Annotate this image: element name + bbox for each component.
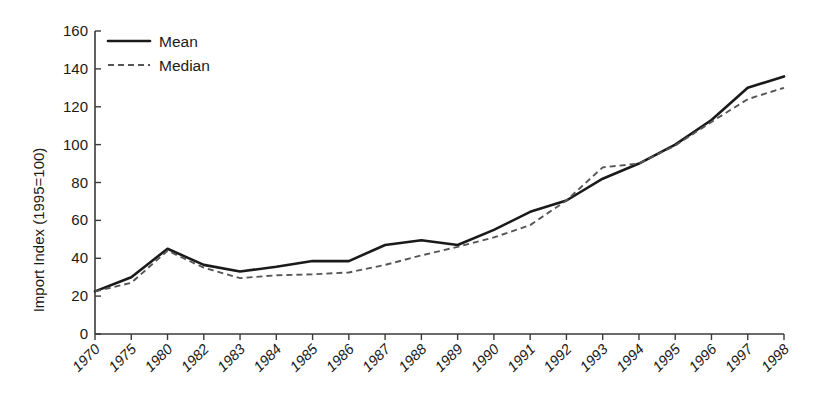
legend-label-mean: Mean (159, 33, 198, 50)
y-tick-label-120: 120 (63, 98, 88, 115)
legend-label-median: Median (159, 57, 210, 74)
y-tick-label-60: 60 (71, 211, 88, 228)
y-tick-label-160: 160 (63, 22, 88, 39)
y-tick-label-20: 20 (71, 287, 88, 304)
line-chart: Import Index (1995=100) 160 140 120 100 … (0, 0, 819, 401)
y-tick-label-80: 80 (71, 174, 88, 191)
y-axis-title: Import Index (1995=100) (30, 148, 47, 313)
y-tick-label-40: 40 (71, 249, 88, 266)
y-tick-label-140: 140 (63, 60, 88, 77)
chart-figure: Import Index (1995=100) 160 140 120 100 … (0, 0, 819, 401)
chart-background (0, 0, 819, 401)
y-tick-label-0: 0 (80, 325, 88, 342)
y-tick-label-100: 100 (63, 136, 88, 153)
